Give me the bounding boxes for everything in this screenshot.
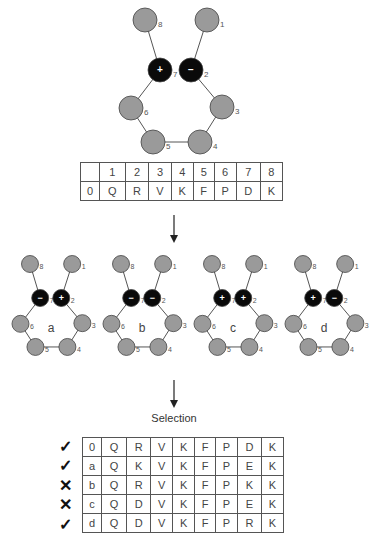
table-cell: 0 [81, 182, 100, 201]
table-cell: K [261, 438, 283, 457]
node-number-label: 1 [220, 20, 225, 29]
node-number-label: 2 [253, 297, 257, 304]
table-cell: F [195, 438, 216, 457]
variant-diagram-d: 81+7−26354d [285, 256, 369, 356]
residue-node [210, 95, 234, 119]
node-number-label: 5 [166, 142, 171, 151]
node-number-label: 6 [212, 323, 216, 330]
node-number-label: 3 [274, 322, 278, 329]
selection-label: Selection [0, 412, 348, 424]
node-number-label: 4 [350, 346, 354, 353]
table-cell: P [215, 457, 237, 476]
node-number-label: 4 [259, 346, 263, 353]
variant-label: b [139, 321, 146, 335]
node-number-label: 3 [365, 322, 369, 329]
node-number-label: 3 [183, 322, 187, 329]
variant-label: d [321, 321, 328, 335]
node-number-label: 2 [344, 297, 348, 304]
node-number-label: 8 [222, 263, 226, 270]
residue-node [246, 256, 263, 273]
table-row: 0QRVKFPDK [83, 438, 284, 457]
table-cell: 3 [149, 163, 171, 182]
table-cell: 7 [236, 163, 260, 182]
variant-diagram-b: 81−7−26354b [103, 256, 187, 356]
table-cell: c [83, 495, 102, 514]
table-row: bQRVKFPKK [83, 476, 284, 495]
node-number-label: 6 [144, 108, 149, 117]
table-cell: R [238, 514, 262, 533]
residue-node [141, 130, 165, 154]
plus-charge-icon: + [241, 293, 246, 303]
residue-node [241, 338, 258, 355]
table-cell: D [127, 514, 151, 533]
table-cell: P [215, 476, 237, 495]
selection-marks: ✓✓✕✕✓ [52, 437, 78, 534]
residue-node [22, 256, 39, 273]
table-cell: 8 [260, 163, 282, 182]
cross-icon: ✕ [52, 476, 78, 495]
node-number-label: 1 [173, 263, 177, 270]
node-number-label: 6 [121, 323, 125, 330]
table-cell: V [151, 476, 173, 495]
residue-node [59, 338, 76, 355]
table-cell: R [125, 182, 149, 201]
table-cell: K [171, 182, 193, 201]
table-cell: F [193, 182, 214, 201]
checkmark-icon: ✓ [52, 515, 78, 534]
arrow-down-icon [170, 215, 178, 243]
residue-node [74, 315, 91, 332]
minus-charge-icon: − [38, 293, 43, 303]
selection-table: 0QRVKFPDKaQKVKFPEKbQRVKFPKKcQDVKFPEKdQDV… [82, 437, 284, 533]
node-number-label: 8 [158, 20, 163, 29]
table-cell: P [215, 514, 237, 533]
table-cell [81, 163, 100, 182]
residue-node [133, 8, 157, 32]
residue-node [194, 315, 211, 332]
table-cell: F [195, 495, 216, 514]
node-number-label: 8 [40, 263, 44, 270]
residue-node [103, 315, 120, 332]
table-cell: K [261, 457, 283, 476]
table-row: aQKVKFPEK [83, 457, 284, 476]
table-cell: 5 [193, 163, 214, 182]
table-cell: Q [101, 457, 126, 476]
table-cell: 1 [100, 163, 126, 182]
table-cell: V [151, 514, 173, 533]
table-cell: b [83, 476, 102, 495]
residue-node [285, 315, 302, 332]
minus-charge-icon: − [150, 293, 155, 303]
residue-node [64, 256, 81, 273]
table-row: cQDVKFPEK [83, 495, 284, 514]
variant-diagram-c: 81+7+26354c [194, 256, 278, 356]
node-number-label: 6 [303, 323, 307, 330]
table-cell: D [238, 438, 262, 457]
node-number-label: 7 [173, 70, 178, 79]
table-cell: V [149, 182, 171, 201]
residue-node [347, 315, 364, 332]
residue-node [150, 338, 167, 355]
node-number-label: 4 [77, 346, 81, 353]
node-number-label: 2 [204, 70, 209, 79]
residue-node [165, 315, 182, 332]
residue-node [195, 8, 219, 32]
position-table: 1 2 3 4 5 6 7 8 0 Q R V K F P D K [80, 162, 283, 201]
residue-node [256, 315, 273, 332]
table-cell: D [127, 495, 151, 514]
residue-node [155, 256, 172, 273]
table-cell: F [195, 457, 216, 476]
variant-diagrams: 81−7+26354a81−7−26354b81+7+26354c81+7−26… [12, 256, 369, 356]
variant-diagram-a: 81−7+26354a [12, 256, 96, 356]
table-row: dQDVKFPRK [83, 514, 284, 533]
table-cell: Q [101, 438, 126, 457]
main-ring-diagram: 81+7−26354 [119, 8, 240, 154]
table-cell: K [127, 457, 151, 476]
node-number-label: 6 [30, 323, 34, 330]
plus-charge-icon: + [311, 293, 316, 303]
node-number-label: 1 [355, 263, 359, 270]
table-cell: V [151, 457, 173, 476]
table-cell: E [238, 457, 262, 476]
node-number-label: 5 [227, 346, 231, 353]
arrow-down-icon [170, 380, 178, 408]
residue-node [119, 96, 143, 120]
table-cell: 2 [125, 163, 149, 182]
